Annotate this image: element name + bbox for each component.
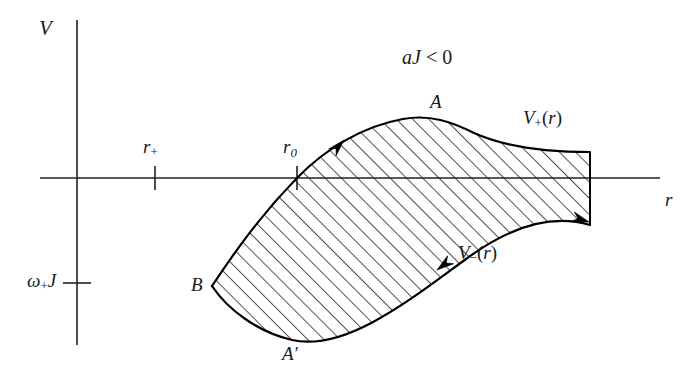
shaded-region-group — [212, 117, 590, 341]
condition-label-value: < 0 — [426, 46, 452, 68]
curve-label-v-minus-var: r — [483, 242, 490, 263]
curve-label-v-plus-base: V — [523, 107, 535, 128]
curve-label-v-minus-close: ) — [491, 242, 497, 263]
tick-label-omega-sub: + — [40, 278, 47, 293]
tick-label-r-plus-sub: + — [150, 144, 157, 159]
potential-diagram-svg — [0, 0, 692, 374]
tick-label-omega-j: ω+J — [27, 271, 56, 293]
condition-label-expr: aJ — [402, 46, 421, 68]
tick-label-r-zero: r0 — [283, 137, 297, 160]
point-label-a-prime: A′ — [282, 344, 298, 363]
curve-label-v-minus: V−(r) — [458, 243, 497, 265]
tick-label-r-plus: r+ — [143, 137, 158, 159]
curve-label-v-minus-sub: − — [470, 250, 477, 265]
v-axis-label: V — [39, 18, 52, 39]
condition-label: aJ < 0 — [402, 47, 452, 67]
curve-label-v-plus-close: ) — [556, 107, 562, 128]
point-label-a: A — [430, 92, 442, 111]
point-label-b: B — [191, 275, 203, 294]
tick-label-r-zero-sub: 0 — [290, 145, 296, 160]
tick-label-omega-tail: J — [48, 270, 56, 291]
shaded-region-fill — [212, 117, 590, 341]
curve-label-v-plus: V+(r) — [523, 108, 562, 130]
curve-label-v-plus-var: r — [548, 107, 555, 128]
figure-container: V r r+ r0 ω+J aJ < 0 A A′ B V+(r) V−(r) — [0, 0, 692, 374]
r-axis-label: r — [665, 190, 672, 209]
curve-label-v-minus-base: V — [458, 242, 470, 263]
curve-label-v-plus-sub: + — [535, 115, 542, 130]
tick-label-omega-base: ω — [27, 270, 40, 291]
